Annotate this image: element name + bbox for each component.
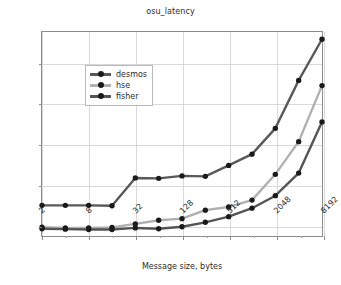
data-point-desmos: [296, 78, 301, 83]
data-point-fisher: [203, 220, 208, 225]
x-tick-mark: [230, 236, 231, 240]
x-tick-mark: [89, 236, 90, 240]
data-point-desmos: [319, 37, 324, 42]
legend-item-fisher: fisher: [90, 91, 147, 102]
data-point-hse: [296, 139, 301, 144]
x-tick-mark: [136, 236, 137, 240]
data-point-fisher: [296, 170, 301, 175]
x-tick-minor: [113, 236, 114, 238]
data-point-desmos: [203, 174, 208, 179]
data-point-hse: [249, 197, 254, 202]
series-line-desmos: [42, 39, 322, 206]
legend-marker-fisher: [90, 92, 111, 101]
legend-label-desmos: desmos: [116, 70, 147, 79]
data-point-fisher: [319, 119, 324, 124]
data-point-fisher: [156, 226, 161, 231]
y-tick-mark: [39, 104, 42, 105]
x-tick-minor: [301, 236, 302, 238]
x-tick-minor: [207, 236, 208, 238]
data-point-fisher: [249, 206, 254, 211]
data-point-desmos: [179, 173, 184, 178]
legend-item-desmos: desmos: [90, 69, 147, 80]
x-tick-minor: [66, 236, 67, 238]
data-point-fisher: [179, 224, 184, 229]
legend-item-hse: hse: [90, 80, 147, 91]
data-point-fisher: [273, 193, 278, 198]
chart-title: osu_latency: [0, 7, 341, 16]
legend-label-hse: hse: [116, 81, 130, 90]
x-tick-mark: [42, 236, 43, 240]
data-point-desmos: [63, 203, 68, 208]
data-point-fisher: [86, 227, 91, 232]
x-tick-mark: [183, 236, 184, 240]
data-point-hse: [319, 83, 324, 88]
chart-legend: desmos hse fisher: [85, 65, 153, 106]
x-tick-mark: [277, 236, 278, 240]
data-point-desmos: [109, 203, 114, 208]
legend-marker-hse: [90, 81, 111, 90]
x-axis-label: Message size, bytes: [41, 262, 323, 271]
data-point-desmos: [156, 176, 161, 181]
data-point-fisher: [109, 227, 114, 232]
chart-figure: osu_latency desmos hse f: [0, 0, 341, 285]
data-point-fisher: [63, 226, 68, 231]
data-point-desmos: [226, 163, 231, 168]
x-tick-minor: [254, 236, 255, 238]
data-point-desmos: [249, 151, 254, 156]
data-point-hse: [156, 218, 161, 223]
data-point-hse: [203, 208, 208, 213]
y-tick-mark: [39, 186, 42, 187]
data-point-fisher: [133, 225, 138, 230]
data-point-desmos: [273, 126, 278, 131]
legend-label-fisher: fisher: [116, 92, 139, 101]
data-point-hse: [179, 216, 184, 221]
y-tick-mark: [39, 64, 42, 65]
data-point-hse: [273, 172, 278, 177]
data-point-desmos: [133, 175, 138, 180]
legend-marker-desmos: [90, 70, 111, 79]
y-tick-mark: [39, 227, 42, 228]
y-tick-mark: [39, 145, 42, 146]
x-tick-minor: [160, 236, 161, 238]
x-tick-mark: [324, 236, 325, 240]
